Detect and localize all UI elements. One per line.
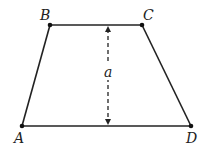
vertex-c-label: C <box>143 7 154 23</box>
vertex-b-dot <box>48 23 53 28</box>
vertex-c-dot <box>140 23 145 28</box>
side-cd <box>142 25 191 126</box>
vertex-a-dot <box>20 124 25 129</box>
vertex-d-dot <box>189 124 194 129</box>
side-ab <box>22 25 50 126</box>
trapezoid-diagram: a B C A D <box>0 0 208 150</box>
vertex-b-label: B <box>39 7 50 23</box>
vertex-a-label: A <box>12 130 24 146</box>
height-label: a <box>104 64 112 80</box>
vertex-d-label: D <box>185 130 197 146</box>
diagram-svg: a B C A D <box>0 0 208 150</box>
